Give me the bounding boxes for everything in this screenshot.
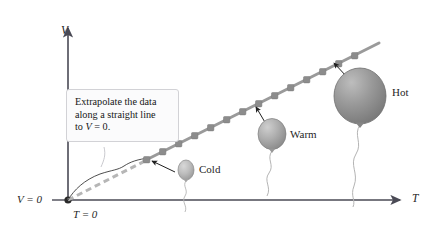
data-point [224, 117, 230, 123]
y-axis-label: V [61, 24, 68, 36]
data-point [208, 125, 214, 131]
balloon-cold-string [184, 181, 187, 212]
balloon-label-warm: Warm [290, 128, 317, 140]
balloon-cold [178, 160, 194, 212]
note-line-2: along a straight line [75, 109, 171, 122]
v-zero-label: V = 0 [17, 193, 42, 205]
data-point [192, 133, 198, 139]
balloon-hot [334, 68, 386, 207]
data-point [256, 101, 262, 107]
balloon-warm-knot [269, 149, 276, 153]
balloon-hot-body [334, 68, 386, 124]
balloon-cold-body [178, 160, 194, 180]
data-point [304, 77, 310, 83]
balloon-cold-knot [184, 179, 189, 182]
balloon-label-hot: Hot [392, 86, 409, 98]
annotation-leader-stem [101, 147, 105, 167]
extrapolation-dashed-line [68, 159, 149, 200]
t-zero-label-text: T = 0 [73, 208, 97, 220]
note-line-3-suffix: = 0. [92, 121, 110, 132]
extrapolation-note: Extrapolate the data along a straight li… [66, 89, 179, 142]
balloon-warm-string [267, 151, 272, 196]
data-point [320, 69, 326, 75]
balloon-warm-body [258, 119, 286, 150]
data-point [272, 93, 278, 99]
data-point [160, 149, 166, 155]
balloon-hot-string [353, 125, 360, 207]
cold-callout-arrow [152, 161, 175, 172]
x-axis-label: T [412, 192, 418, 204]
note-line-3-prefix: to [75, 121, 85, 132]
balloon-warm [258, 119, 286, 197]
data-point [144, 157, 150, 163]
balloon-hot-knot [356, 123, 365, 128]
v-zero-label-text: V = 0 [17, 193, 42, 205]
note-line-1: Extrapolate the data [75, 96, 171, 109]
data-point [352, 53, 358, 59]
t-zero-label: T = 0 [73, 208, 97, 220]
data-point [240, 109, 246, 115]
note-line-3: to V = 0. [75, 121, 171, 134]
data-point [288, 85, 294, 91]
balloon-label-cold: Cold [199, 163, 220, 175]
